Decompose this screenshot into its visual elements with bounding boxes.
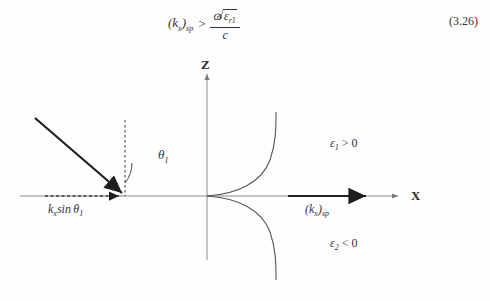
dispersion-curve-upper — [207, 112, 276, 196]
theta-subscript: 1 — [164, 156, 168, 165]
x-axis-label: X — [411, 188, 420, 204]
equation-relation: > — [196, 16, 207, 32]
square-root-symbol: εr1 — [223, 9, 237, 26]
equation-3-26: (kx)sp > ωεr1 c — [168, 8, 240, 40]
epsilon1-relation: > 0 — [339, 136, 358, 150]
incident-wavevector-arrow — [35, 118, 122, 193]
epsilon2-relation: < 0 — [339, 236, 358, 250]
epsilon2-label: ε2 < 0 — [330, 236, 358, 252]
sin-theta-text: sin θ — [57, 202, 79, 216]
equation-denominator: c — [219, 28, 230, 42]
equation-fraction: ωεr1 c — [210, 9, 239, 41]
epsilon-subscript: r1 — [229, 16, 236, 25]
sp-wavevector-label: (kx)sp — [305, 202, 329, 218]
diagram-canvas — [0, 50, 490, 301]
equation-numerator: ωεr1 — [210, 9, 239, 27]
angle-label: θ1 — [158, 147, 168, 165]
epsilon1-label: ε1 > 0 — [330, 136, 358, 152]
equation-block: (kx)sp > ωεr1 c (3.26) — [0, 6, 490, 50]
sp-subscript: sp — [322, 209, 329, 218]
angle-arc — [125, 163, 132, 183]
document-page: (kx)sp > ωεr1 c (3.26) — [0, 0, 490, 301]
sp-open-paren: (k — [305, 202, 314, 216]
sin-theta-subscript: 1 — [79, 209, 83, 218]
z-axis-label: Z — [201, 57, 210, 73]
equation-number: (3.26) — [449, 14, 478, 29]
equation-lhs-open: (k — [168, 15, 178, 30]
dispersion-curve-lower — [207, 196, 276, 280]
equation-lhs-sp-subscript: sp — [186, 24, 193, 33]
equation-lhs: (kx)sp — [168, 15, 193, 33]
incident-projection-label: kxsin θ1 — [48, 202, 83, 218]
figure-diagram: Z X θ1 kxsin θ1 (kx)sp ε1 > 0 ε2 < 0 — [0, 50, 490, 301]
